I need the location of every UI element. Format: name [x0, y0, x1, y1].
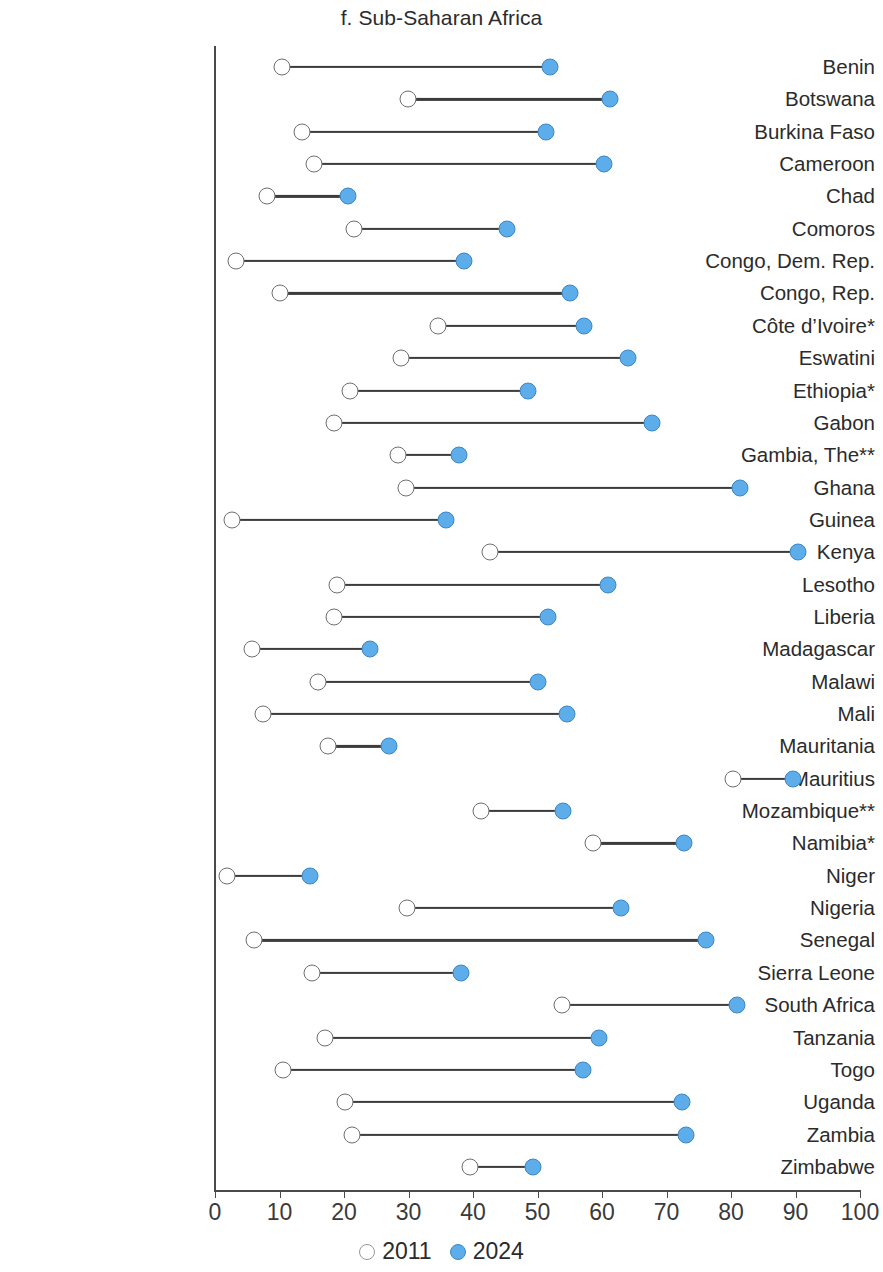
- x-axis-tick-label: 10: [267, 1199, 293, 1226]
- data-point-2024: [455, 253, 472, 270]
- x-axis-tick-label: 60: [589, 1199, 615, 1226]
- dumbbell-connector: [334, 422, 652, 424]
- data-point-2024: [381, 738, 398, 755]
- x-axis-tick: [731, 1190, 732, 1198]
- y-axis-label: Cameroon: [677, 152, 883, 176]
- y-axis-label: Togo: [677, 1058, 883, 1082]
- data-point-2011: [274, 59, 291, 76]
- data-point-2011: [345, 220, 362, 237]
- data-point-2024: [673, 1094, 690, 1111]
- y-axis-label: Gabon: [677, 411, 883, 435]
- data-point-2011: [228, 253, 245, 270]
- data-point-2011: [393, 350, 410, 367]
- y-axis-label: Gambia, The**: [677, 443, 883, 467]
- data-point-2024: [619, 350, 636, 367]
- data-point-2011: [271, 285, 288, 302]
- data-point-2024: [732, 479, 749, 496]
- dumbbell-connector: [407, 907, 621, 909]
- data-point-2011: [254, 706, 271, 723]
- y-axis-label: Côte d’Ivoire*: [677, 314, 883, 338]
- dumbbell-connector: [406, 486, 740, 488]
- x-axis-tick: [860, 1190, 861, 1198]
- x-axis-tick: [602, 1190, 603, 1198]
- data-point-2011: [429, 317, 446, 334]
- dumbbell-connector: [490, 551, 798, 553]
- data-point-2024: [675, 835, 692, 852]
- y-axis-label: Mozambique**: [677, 799, 883, 823]
- dumbbell-connector: [236, 260, 464, 262]
- data-point-2024: [558, 706, 575, 723]
- data-point-2011: [584, 835, 601, 852]
- dumbbell-connector: [593, 842, 684, 844]
- dumbbell-connector: [334, 616, 547, 618]
- data-point-2024: [729, 997, 746, 1014]
- data-point-2011: [389, 447, 406, 464]
- y-axis-label: Benin: [677, 55, 883, 79]
- data-point-2011: [554, 997, 571, 1014]
- dumbbell-connector: [302, 131, 546, 133]
- y-axis-label: Zimbabwe: [677, 1155, 883, 1179]
- y-axis-label: Botswana: [677, 87, 883, 111]
- dumbbell-connector: [312, 972, 462, 974]
- chart-legend: 20112024: [0, 1238, 883, 1265]
- data-point-2011: [305, 156, 322, 173]
- y-axis-label: Malawi: [677, 670, 883, 694]
- data-point-2024: [437, 511, 454, 528]
- data-point-2011: [326, 608, 343, 625]
- y-axis-label: Eswatini: [677, 346, 883, 370]
- data-point-2024: [600, 576, 617, 593]
- dumbbell-connector: [318, 681, 538, 683]
- y-axis-label: Mali: [677, 702, 883, 726]
- dumbbell-connector: [267, 195, 348, 197]
- y-axis-label: Tanzania: [677, 1026, 883, 1050]
- y-axis-label: Mauritania: [677, 734, 883, 758]
- x-axis-tick: [538, 1190, 539, 1198]
- data-point-2011: [399, 91, 416, 108]
- legend-item-2011[interactable]: 2011: [359, 1238, 431, 1265]
- y-axis-label: Namibia*: [677, 831, 883, 855]
- y-axis-label: Madagascar: [677, 637, 883, 661]
- legend-item-2024[interactable]: 2024: [450, 1238, 524, 1265]
- data-point-2011: [303, 964, 320, 981]
- data-point-2024: [339, 188, 356, 205]
- data-point-2024: [575, 317, 592, 334]
- y-axis-line: [214, 46, 216, 1190]
- data-point-2011: [342, 382, 359, 399]
- data-point-2011: [326, 414, 343, 431]
- data-point-2011: [309, 673, 326, 690]
- data-point-2024: [539, 608, 556, 625]
- dumbbell-connector: [562, 1004, 737, 1006]
- x-axis-tick: [344, 1190, 345, 1198]
- data-point-2024: [519, 382, 536, 399]
- dumbbell-connector: [481, 810, 564, 812]
- data-point-2011: [258, 188, 275, 205]
- y-axis-label: Burkina Faso: [677, 120, 883, 144]
- dumbbell-connector: [325, 1036, 600, 1038]
- data-point-2024: [555, 803, 572, 820]
- dumbbell-connector: [252, 648, 370, 650]
- y-axis-label: Congo, Dem. Rep.: [677, 249, 883, 273]
- dumbbell-connector: [470, 1166, 533, 1168]
- data-point-2024: [451, 447, 468, 464]
- data-point-2024: [542, 59, 559, 76]
- data-point-2011: [481, 544, 498, 561]
- data-point-2024: [537, 123, 554, 140]
- y-axis-label: Lesotho: [677, 573, 883, 597]
- data-point-2011: [316, 1029, 333, 1046]
- x-axis-tick: [796, 1190, 797, 1198]
- data-point-2011: [461, 1158, 478, 1175]
- x-axis-tick-label: 100: [841, 1199, 879, 1226]
- data-point-2024: [574, 1061, 591, 1078]
- dumbbell-connector: [350, 389, 527, 391]
- dumbbell-connector: [227, 875, 310, 877]
- data-point-2011: [724, 770, 741, 787]
- x-axis-tick: [280, 1190, 281, 1198]
- dumbbell-connector: [263, 713, 567, 715]
- y-axis-label: Niger: [677, 864, 883, 888]
- y-axis-label: Uganda: [677, 1090, 883, 1114]
- dumbbell-connector: [314, 163, 604, 165]
- y-axis-label: Comoros: [677, 217, 883, 241]
- data-point-2024: [644, 414, 661, 431]
- y-axis-label: Nigeria: [677, 896, 883, 920]
- x-axis-tick-label: 20: [331, 1199, 357, 1226]
